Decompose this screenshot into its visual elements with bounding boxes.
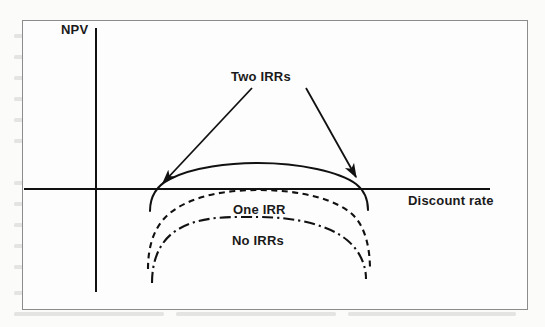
annotation-no-irrs: No IRRs	[232, 234, 284, 247]
arrow-to-left-root	[163, 88, 252, 183]
arrow-to-right-root	[306, 88, 356, 177]
figure-root: NPV Discount rate Two IRRs One IRR No IR…	[0, 0, 545, 327]
annotation-two-irrs: Two IRRs	[231, 70, 291, 83]
curve-no-irrs	[152, 217, 366, 283]
annotation-one-irr: One IRR	[233, 203, 286, 216]
y-axis-label: NPV	[61, 23, 88, 36]
x-axis-label: Discount rate	[408, 194, 494, 207]
npv-irr-plot	[0, 0, 545, 327]
